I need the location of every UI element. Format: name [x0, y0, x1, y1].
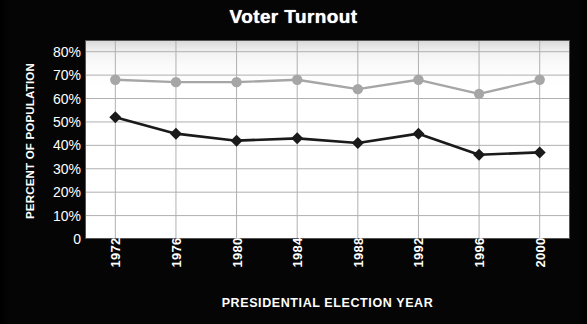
- data-point-circle: [474, 89, 484, 99]
- y-tick-label: 40%: [37, 138, 81, 152]
- data-point-diamond: [534, 146, 546, 158]
- x-axis-title: PRESIDENTIAL ELECTION YEAR: [85, 296, 570, 310]
- plot-area: [85, 40, 570, 239]
- y-tick-label: 80%: [37, 45, 81, 59]
- y-tick-label: 60%: [37, 92, 81, 106]
- x-axis-tick-labels: 19721976198019841988199219962000: [85, 239, 570, 295]
- x-tick-label-2000: 2000: [532, 225, 547, 281]
- y-axis-tick-labels: 80%70%60%50%40%30%20%10%0: [33, 40, 81, 239]
- y-tick-label: 0: [37, 232, 81, 246]
- x-tick-label-1996: 1996: [472, 225, 487, 281]
- x-tick-label-1992: 1992: [411, 225, 426, 281]
- data-point-circle: [171, 77, 181, 87]
- x-tick-label-1984: 1984: [290, 225, 305, 281]
- y-tick-label: 30%: [37, 162, 81, 176]
- data-point-circle: [110, 75, 120, 85]
- y-tick-label: 50%: [37, 115, 81, 129]
- plot-svg: [85, 40, 570, 239]
- chart-title: Voter Turnout: [0, 6, 587, 28]
- right-edge-vignette: [577, 0, 587, 324]
- data-point-circle: [413, 75, 423, 85]
- data-point-circle: [353, 84, 363, 94]
- chart-figure: Voter Turnout PERCENT OF POPULATION 80%7…: [0, 0, 587, 324]
- data-point-diamond: [291, 132, 303, 144]
- x-tick-label-1976: 1976: [168, 225, 183, 281]
- x-tick-label-1988: 1988: [350, 225, 365, 281]
- data-point-diamond: [412, 128, 424, 140]
- left-edge-vignette: [0, 0, 10, 324]
- x-tick-label-1980: 1980: [229, 225, 244, 281]
- y-tick-label: 70%: [37, 68, 81, 82]
- data-point-diamond: [473, 149, 485, 161]
- y-tick-label: 20%: [37, 185, 81, 199]
- data-point-diamond: [170, 128, 182, 140]
- data-point-circle: [534, 75, 544, 85]
- x-tick-label-1972: 1972: [108, 225, 123, 281]
- y-tick-label: 10%: [37, 209, 81, 223]
- data-point-circle: [292, 75, 302, 85]
- data-point-diamond: [352, 137, 364, 149]
- data-series-layer: [109, 75, 545, 161]
- data-point-circle: [231, 77, 241, 87]
